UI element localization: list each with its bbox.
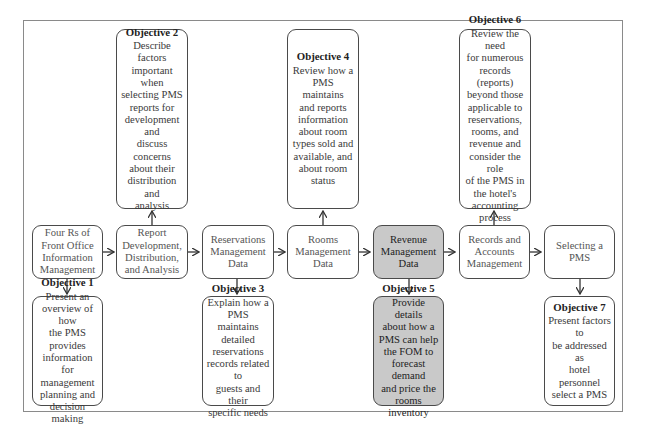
objective-2-box: Objective 2 Describe factors important w… (116, 29, 188, 209)
objective-4-title: Objective 4 (297, 50, 349, 62)
objective-7-title: Objective 7 (553, 301, 605, 313)
objective-6-box: Objective 6 Review the need for numerous… (459, 29, 531, 209)
topic-rooms-label: Rooms Management Data (295, 234, 350, 271)
topic-selecting: Selecting a PMS (544, 225, 615, 279)
objective-6-title: Objective 6 (469, 13, 521, 25)
topic-report-development: Report Development, Distribution, and An… (116, 225, 188, 279)
topic-reservations: Reservations Management Data (202, 225, 274, 279)
objective-5-body: Provide details about how a PMS can help… (377, 297, 440, 420)
topic-selecting-label: Selecting a PMS (556, 240, 603, 265)
objective-5-title: Objective 5 (382, 282, 434, 294)
topic-rooms: Rooms Management Data (287, 225, 359, 279)
objective-7-box: Objective 7 Present factors to be addres… (544, 296, 615, 406)
objective-3-body: Explain how a PMS maintains detailed res… (206, 297, 270, 420)
objective-1-box: Objective 1 Present an overview of how t… (32, 296, 103, 406)
topic-report-development-label: Report Development, Distribution, and An… (122, 227, 182, 276)
topic-reservations-label: Reservations Management Data (210, 234, 265, 271)
objective-1-title: Objective 1 (41, 276, 93, 288)
objective-2-body: Describe factors important when selectin… (120, 40, 184, 212)
topic-four-rs: Four Rs of Front Office Information Mana… (32, 225, 103, 279)
objective-3-title: Objective 3 (212, 282, 264, 294)
objective-7-body: Present factors to be addressed as hotel… (548, 315, 611, 401)
objective-2-title: Objective 2 (126, 26, 178, 38)
objective-6-body: Review the need for numerous records (re… (463, 28, 527, 225)
topic-revenue-label: Revenue Management Data (381, 234, 436, 271)
objective-1-body: Present an overview of how the PMS provi… (36, 291, 99, 426)
objective-4-body: Review how a PMS maintains and reports i… (291, 65, 355, 188)
topic-records: Records and Accounts Management (459, 225, 530, 279)
topic-revenue: Revenue Management Data (373, 225, 444, 279)
objective-4-box: Objective 4 Review how a PMS maintains a… (287, 29, 359, 209)
topic-records-label: Records and Accounts Management (467, 234, 522, 271)
objective-3-box: Objective 3 Explain how a PMS maintains … (202, 296, 274, 406)
objective-5-box: Objective 5 Provide details about how a … (373, 296, 444, 406)
topic-four-rs-label: Four Rs of Front Office Information Mana… (40, 227, 95, 276)
